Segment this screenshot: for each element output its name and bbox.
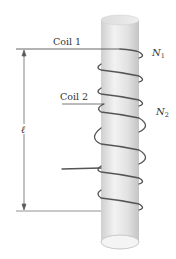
cylinder-top bbox=[101, 15, 139, 25]
coil-2-label: Coil 2 bbox=[60, 91, 88, 102]
arrowhead-down-icon bbox=[22, 204, 26, 210]
n1-label: N1 bbox=[151, 47, 165, 60]
coil-1-label: Coil 1 bbox=[53, 36, 81, 47]
diagram-canvas: Coil 1 Coil 2 ℓ bbox=[0, 0, 176, 259]
arrowhead-up-icon bbox=[22, 50, 26, 56]
coil-diagram: Coil 1 Coil 2 ℓ bbox=[0, 0, 176, 259]
cylinder-bottom bbox=[101, 235, 139, 249]
length-label: ℓ bbox=[21, 124, 25, 135]
n2-label: N2 bbox=[155, 106, 169, 119]
